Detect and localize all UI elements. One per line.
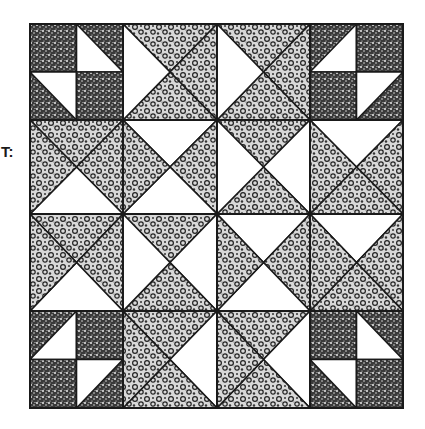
quilt-cells (30, 24, 403, 408)
shoofly-dark-square (77, 72, 124, 120)
shoofly-dark-square (357, 24, 404, 72)
shoofly-dark-square (310, 311, 357, 360)
shoofly-dark-square (30, 24, 77, 72)
shoofly-dark-square (357, 360, 404, 409)
shoofly-dark-square (77, 311, 124, 360)
shoofly-dark-square (310, 72, 357, 120)
quilt-block-diagram (0, 0, 425, 429)
shoofly-dark-square (30, 360, 77, 409)
